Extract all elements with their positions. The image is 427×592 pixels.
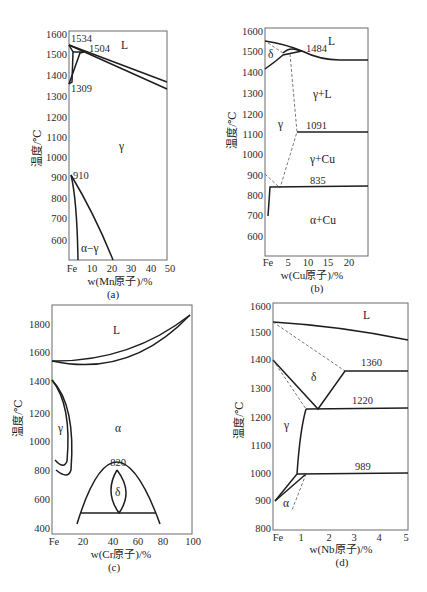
annotation-1220: 1220 (352, 395, 373, 406)
y-tick: 700 (51, 213, 67, 224)
x-tick: Fe (49, 536, 60, 547)
alpha-boundary (71, 175, 78, 260)
y-tick: 1400 (242, 67, 263, 78)
panel-a-y-ticks: 1600 1500 1400 1300 1200 1100 1000 900 8… (46, 29, 67, 246)
y-tick: 600 (247, 231, 263, 242)
panel-c-y-ticks: 1800 1600 1400 1200 1000 800 600 400 (29, 319, 50, 534)
panel-c-caption: (c) (108, 561, 121, 574)
x-tick: 20 (344, 257, 355, 268)
phase-label-gamma: γ (57, 422, 63, 435)
y-tick: 1200 (250, 412, 271, 423)
y-tick: 600 (51, 235, 67, 246)
peritectic-line (69, 52, 84, 84)
x-tick: 5 (285, 257, 290, 268)
panel-d-x-label: w(Nb原子)/% (310, 543, 373, 556)
x-tick: 10 (87, 263, 98, 274)
x-tick: 100 (185, 536, 201, 547)
y-tick: 900 (247, 170, 263, 181)
panel-a-y-label: 温度/℃ (30, 129, 43, 166)
y-tick: 1600 (250, 301, 271, 312)
y-tick: 800 (34, 465, 50, 476)
phase-label-alpha: α (115, 422, 121, 434)
y-tick: 1500 (242, 46, 263, 57)
panel-a-x-label: w(Mn原子)/% (88, 275, 153, 288)
y-tick: 1000 (242, 149, 263, 160)
x-tick: 1 (298, 532, 303, 543)
x-tick: 15 (323, 257, 334, 268)
y-tick: 600 (34, 494, 50, 505)
panel-b-caption: (b) (311, 282, 324, 295)
x-tick: 4 (376, 532, 382, 543)
annotation-989: 989 (355, 461, 371, 472)
y-tick: 1200 (242, 109, 263, 120)
y-tick: 1100 (242, 129, 263, 140)
y-tick: 1300 (250, 383, 271, 394)
x-tick: 40 (146, 263, 157, 274)
liquidus-line (69, 45, 167, 82)
delta-boundary-1360 (273, 360, 408, 409)
panel-b-x-label: w(Cu原子)/% (281, 269, 343, 282)
x-tick: Fe (263, 257, 274, 268)
y-tick: 1100 (250, 440, 271, 451)
x-tick: 20 (107, 263, 118, 274)
annotation-1360: 1360 (361, 357, 382, 368)
y-tick: 1100 (46, 132, 67, 143)
x-tick: 5 (403, 532, 408, 543)
x-tick: 30 (126, 263, 137, 274)
y-tick: 1000 (250, 468, 271, 479)
delta-dashed-lower (273, 360, 306, 409)
panel-a-x-ticks: Fe 10 20 30 40 50 (67, 263, 176, 274)
y-tick: 1300 (46, 91, 67, 102)
phase-label-delta: δ (311, 371, 316, 383)
phase-label-L: L (328, 35, 335, 47)
y-tick: 1000 (29, 436, 50, 447)
phase-label-gamma: γ (277, 118, 283, 131)
y-tick: 1400 (29, 376, 50, 387)
isotherm-1220 (306, 408, 408, 409)
y-tick: 1800 (29, 319, 50, 330)
phase-label-alpha-gamma: α−γ (81, 242, 99, 255)
y-tick: 1400 (46, 70, 67, 81)
y-tick: 1400 (250, 354, 271, 365)
phase-label-alpha-Cu: α+Cu (310, 214, 336, 226)
liquidus-line (273, 322, 408, 340)
y-tick: 1600 (46, 29, 67, 40)
y-tick: 800 (247, 190, 263, 201)
panel-d-y-ticks: 1600 1500 1400 1300 1200 1100 1000 900 8… (250, 301, 271, 534)
y-tick: 700 (247, 210, 263, 221)
y-tick: 800 (51, 193, 67, 204)
panel-a-frame (69, 31, 167, 260)
x-tick: 20 (78, 536, 89, 547)
x-tick: 60 (133, 536, 144, 547)
panel-c-x-ticks: Fe 20 40 60 80 100 (49, 536, 201, 547)
panel-a-caption: (a) (107, 288, 120, 301)
annotation-1504: 1504 (89, 43, 111, 54)
panel-b-x-ticks: Fe 5 10 15 20 (263, 257, 355, 268)
isotherm-835 (268, 186, 368, 216)
x-tick: 80 (158, 536, 169, 547)
y-tick: 900 (51, 172, 67, 183)
y-tick: 1000 (46, 152, 67, 163)
annotation-1309: 1309 (71, 83, 92, 94)
y-tick: 1500 (250, 327, 271, 338)
x-tick: 50 (165, 263, 176, 274)
isotherm-989 (297, 473, 408, 474)
y-tick: 800 (255, 523, 271, 534)
panel-a-fe-mn: 1600 1500 1400 1300 1200 1100 1000 900 8… (30, 29, 175, 301)
x-tick: Fe (67, 263, 78, 274)
annotation-820: 820 (110, 457, 126, 468)
phase-label-alpha: α (283, 497, 289, 509)
phase-label-delta: δ (268, 48, 273, 60)
x-tick: 10 (303, 257, 314, 268)
phase-label-delta: δ (115, 486, 120, 498)
alpha-boundary (275, 474, 306, 501)
panel-b-y-label: 温度/℃ (225, 111, 238, 148)
annotation-835: 835 (310, 175, 326, 186)
phase-label-L: L (113, 324, 120, 336)
y-tick: 400 (34, 523, 50, 534)
y-tick: 1600 (29, 347, 50, 358)
y-tick: 1600 (242, 26, 263, 37)
y-tick: 900 (255, 495, 271, 506)
panel-d-y-label: 温度/℃ (232, 401, 245, 438)
phase-label-gamma: γ (118, 140, 124, 153)
